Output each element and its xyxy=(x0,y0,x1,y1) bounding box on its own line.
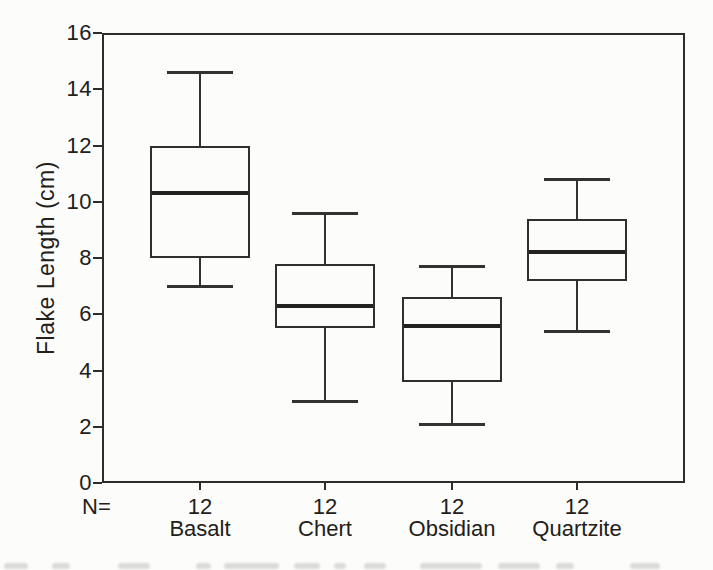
lower-whisker-cap-obsidian xyxy=(419,423,485,426)
y-tick-label: 16 xyxy=(40,20,92,46)
box-chert xyxy=(275,264,375,329)
category-label-basalt: Basalt xyxy=(130,516,270,542)
y-tick-label: 14 xyxy=(40,76,92,102)
median-line-chert xyxy=(277,304,373,308)
y-tick-label: 10 xyxy=(40,189,92,215)
y-tick-mark xyxy=(93,370,102,372)
lower-whisker-basalt xyxy=(199,258,201,286)
cropped-caption-remnant-mark xyxy=(420,563,482,569)
cropped-caption-remnant-mark xyxy=(118,563,150,569)
upper-whisker-cap-obsidian xyxy=(419,265,485,268)
median-line-basalt xyxy=(152,191,248,195)
lower-whisker-cap-quartzite xyxy=(544,330,610,333)
median-line-quartzite xyxy=(529,250,625,254)
lower-whisker-chert xyxy=(324,328,326,401)
cropped-caption-remnant-mark xyxy=(52,563,70,569)
category-label-obsidian: Obsidian xyxy=(382,516,522,542)
cropped-caption-remnant-mark xyxy=(556,563,574,569)
cropped-caption-remnant-mark xyxy=(4,563,28,569)
y-tick-mark xyxy=(93,88,102,90)
lower-whisker-obsidian xyxy=(451,382,453,424)
cropped-caption-remnant-mark xyxy=(334,563,346,569)
y-tick-label: 8 xyxy=(40,245,92,271)
upper-whisker-cap-chert xyxy=(292,212,358,215)
y-tick-mark xyxy=(93,257,102,259)
lower-whisker-cap-basalt xyxy=(167,285,233,288)
median-line-obsidian xyxy=(404,324,500,328)
box-basalt xyxy=(150,146,250,259)
lower-whisker-quartzite xyxy=(576,281,578,332)
y-tick-label: 2 xyxy=(40,414,92,440)
y-tick-mark xyxy=(93,32,102,34)
x-tick-mark-basalt xyxy=(199,483,201,490)
upper-whisker-quartzite xyxy=(576,179,578,218)
cropped-caption-remnant-mark xyxy=(364,563,386,569)
category-label-chert: Chert xyxy=(255,516,395,542)
flake-length-boxplot-figure: Flake Length (cm) N= 024681012141612Basa… xyxy=(0,0,713,570)
y-tick-label: 6 xyxy=(40,301,92,327)
y-tick-mark xyxy=(93,482,102,484)
cropped-caption-remnant-mark xyxy=(498,563,540,569)
category-label-quartzite: Quartzite xyxy=(507,516,647,542)
upper-whisker-cap-basalt xyxy=(167,71,233,74)
x-tick-mark-chert xyxy=(324,483,326,490)
y-tick-mark xyxy=(93,313,102,315)
cropped-caption-remnant-mark xyxy=(224,563,279,569)
x-tick-mark-obsidian xyxy=(451,483,453,490)
y-tick-mark xyxy=(93,201,102,203)
upper-whisker-basalt xyxy=(199,72,201,145)
y-tick-label: 12 xyxy=(40,133,92,159)
upper-whisker-cap-quartzite xyxy=(544,178,610,181)
box-obsidian xyxy=(402,297,502,381)
cropped-caption-remnant-mark xyxy=(630,563,660,569)
x-tick-mark-quartzite xyxy=(576,483,578,490)
upper-whisker-obsidian xyxy=(451,266,453,297)
y-tick-label: 4 xyxy=(40,358,92,384)
y-tick-mark xyxy=(93,426,102,428)
y-tick-label: 0 xyxy=(40,470,92,496)
y-tick-mark xyxy=(93,145,102,147)
lower-whisker-cap-chert xyxy=(292,400,358,403)
n-equals-label: N= xyxy=(82,494,111,520)
cropped-caption-remnant-mark xyxy=(196,563,211,569)
cropped-caption-remnant-mark xyxy=(294,563,320,569)
upper-whisker-chert xyxy=(324,213,326,264)
